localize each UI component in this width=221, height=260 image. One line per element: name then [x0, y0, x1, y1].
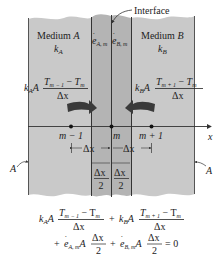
- node-m-plus-1: [150, 125, 154, 129]
- svg-text:2: 2: [99, 180, 104, 191]
- node-m: [110, 125, 114, 129]
- svg-text:+: +: [110, 238, 116, 249]
- area-label-left: A: [9, 163, 17, 174]
- svg-text:Tm − 1 − Tm: Tm − 1 − Tm: [59, 207, 101, 219]
- area-pointer-right-icon: [195, 162, 206, 166]
- medium-b-label: Medium B: [141, 30, 184, 41]
- node-m-minus-1: [69, 125, 73, 129]
- x-axis-label: x: [207, 131, 213, 142]
- svg-text:2: 2: [152, 245, 157, 256]
- svg-text:Tm + 1 − Tm: Tm + 1 − Tm: [140, 207, 182, 219]
- area-label-right: A: [205, 165, 213, 176]
- svg-text:Δx: Δx: [57, 90, 68, 101]
- svg-text:Δx: Δx: [123, 143, 134, 154]
- svg-text:Δx: Δx: [94, 167, 105, 178]
- svg-text:kAA: kAA: [39, 213, 55, 226]
- e-b-dot: ·: [113, 29, 116, 38]
- node-m-label: m: [113, 130, 120, 141]
- area-pointer-left-icon: [17, 162, 28, 167]
- svg-text:= 0: = 0: [165, 238, 178, 249]
- e-a-dot: ·: [93, 29, 96, 38]
- svg-text:eA, mA: eA, mA: [64, 238, 86, 250]
- svg-text:·: ·: [121, 232, 124, 241]
- svg-text:eB, mA: eB, mA: [120, 238, 142, 250]
- node-m-minus-1-label: m − 1: [59, 130, 83, 141]
- medium-a-label: Medium A: [37, 30, 80, 41]
- energy-balance-equation: kAA Tm − 1 − Tm Δx + kBA Tm + 1 − Tm Δx …: [39, 207, 184, 256]
- node-m-plus-1-label: m + 1: [139, 130, 163, 141]
- svg-text:Δx: Δx: [172, 90, 183, 101]
- svg-text:Δx: Δx: [114, 167, 125, 178]
- interface-node-diagram: Interface Medium A kA Medium B kB eA, m …: [0, 0, 221, 260]
- svg-text:Δx: Δx: [83, 143, 94, 154]
- svg-text:Δx: Δx: [73, 221, 84, 232]
- svg-text:2: 2: [119, 180, 124, 191]
- svg-text:+: +: [109, 213, 115, 224]
- svg-text:2: 2: [96, 245, 101, 256]
- svg-text:+: +: [54, 238, 60, 249]
- svg-text:kBA: kBA: [119, 213, 135, 226]
- svg-text:Δx: Δx: [154, 221, 165, 232]
- interface-label: Interface: [134, 5, 170, 16]
- svg-text:Δx: Δx: [92, 232, 103, 243]
- svg-text:Δx: Δx: [148, 232, 159, 243]
- svg-text:·: ·: [65, 232, 68, 241]
